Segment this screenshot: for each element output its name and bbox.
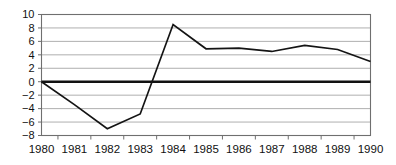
x-tick-label-1989: 1989 [325,143,351,155]
y-tick-label--2: −2 [22,89,35,101]
y-tick-label-2: 2 [28,62,34,74]
y-tick-label--8: −8 [22,129,35,141]
x-tick-label-1980: 1980 [29,143,55,155]
x-tick-label-1981: 1981 [62,143,88,155]
y-tick-label--4: −4 [22,102,35,114]
x-tick-label-1987: 1987 [259,143,285,155]
chart-canvas: 1086420−2−4−6−8 198019811982198319841985… [0,0,396,165]
y-tick-label-0: 0 [28,76,34,88]
y-tick-label-4: 4 [28,49,34,61]
y-tick-label-8: 8 [28,22,34,34]
line-chart: 1086420−2−4−6−8 198019811982198319841985… [0,0,396,165]
x-tick-label-1988: 1988 [292,143,318,155]
x-tick-label-1984: 1984 [160,143,186,155]
y-tick-label-6: 6 [28,35,34,47]
y-tick-label-10: 10 [22,8,34,20]
x-axis-tick-labels: 1980198119821983198419851986198719881989… [29,143,384,155]
y-tick-label--6: −6 [22,116,35,128]
x-tick-label-1985: 1985 [193,143,219,155]
x-tick-label-1983: 1983 [127,143,153,155]
x-tick-label-1982: 1982 [95,143,121,155]
x-tick-label-1990: 1990 [358,143,384,155]
x-tick-label-1986: 1986 [226,143,252,155]
